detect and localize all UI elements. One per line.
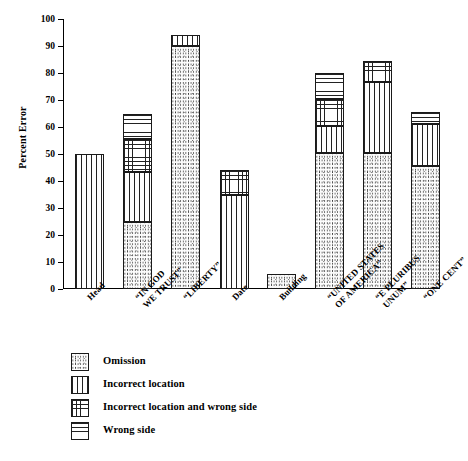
legend-label: Wrong side	[103, 424, 155, 435]
bar-segment-horizontal	[411, 112, 440, 124]
legend-label: Incorrect location	[103, 378, 185, 389]
legend-swatch-grid	[71, 399, 89, 417]
y-tick-label: 100	[0, 15, 55, 25]
bar-segment-grid	[315, 99, 344, 126]
bar-segment-vertical	[123, 172, 152, 222]
bar-segment-grid	[123, 139, 152, 171]
bar-segment-vertical	[411, 124, 440, 166]
legend-label: Omission	[103, 355, 146, 366]
y-tick-mark	[58, 19, 63, 20]
plot-area: 0102030405060708090100	[63, 19, 419, 289]
chart-legend: OmissionIncorrect locationIncorrect loca…	[71, 352, 391, 444]
legend-item-1: Incorrect location	[71, 375, 391, 398]
y-tick-mark	[58, 235, 63, 236]
bar-1	[123, 114, 152, 290]
y-tick-mark	[58, 262, 63, 263]
y-tick-label: 30	[0, 204, 55, 214]
legend-item-3: Wrong side	[71, 421, 391, 444]
y-tick-label: 60	[0, 123, 55, 133]
bar-segment-horizontal	[123, 114, 152, 140]
y-tick-mark	[58, 127, 63, 128]
legend-swatch-vertical	[71, 376, 89, 394]
y-tick-label: 80	[0, 69, 55, 79]
y-tick-label: 90	[0, 42, 55, 52]
y-tick-mark	[58, 46, 63, 47]
y-axis-line	[63, 19, 64, 289]
y-tick-label: 40	[0, 177, 55, 187]
y-tick-mark	[58, 208, 63, 209]
y-tick-mark	[58, 181, 63, 182]
bar-segment-vertical	[171, 35, 200, 46]
bar-segment-vertical	[315, 126, 344, 153]
bar-2	[171, 35, 200, 289]
y-tick-mark	[58, 289, 63, 290]
y-tick-label: 0	[0, 285, 55, 295]
legend-swatch-stipple	[71, 353, 89, 371]
bar-segment-stipple	[171, 46, 200, 289]
bar-segment-grid	[363, 61, 392, 83]
y-tick-label: 10	[0, 258, 55, 268]
bar-segment-horizontal	[315, 73, 344, 99]
y-tick-label: 50	[0, 150, 55, 160]
bar-segment-vertical	[75, 154, 104, 289]
bar-segment-grid	[220, 170, 249, 194]
y-tick-label: 70	[0, 96, 55, 106]
y-tick-mark	[58, 154, 63, 155]
bar-3	[220, 170, 249, 289]
legend-label: Incorrect location and wrong side	[103, 401, 257, 412]
bar-5	[315, 73, 344, 289]
bar-0	[75, 154, 104, 289]
legend-swatch-horizontal	[71, 422, 89, 440]
y-tick-mark	[58, 100, 63, 101]
y-tick-mark	[58, 73, 63, 74]
legend-item-0: Omission	[71, 352, 391, 375]
bar-segment-vertical	[220, 195, 249, 290]
legend-item-2: Incorrect location and wrong side	[71, 398, 391, 421]
bar-segment-stipple	[315, 153, 344, 289]
bar-segment-vertical	[363, 82, 392, 152]
y-tick-label: 20	[0, 231, 55, 241]
